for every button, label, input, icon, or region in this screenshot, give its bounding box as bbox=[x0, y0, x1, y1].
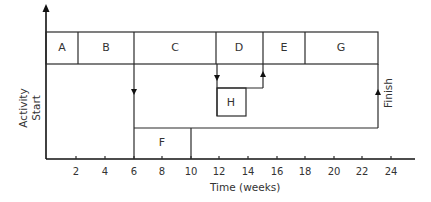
tick-label: 24 bbox=[385, 166, 398, 177]
tick-label: 22 bbox=[356, 166, 369, 177]
activity-f-label: F bbox=[159, 136, 165, 149]
tick-label: 18 bbox=[299, 166, 312, 177]
arrow-down-icon bbox=[214, 75, 220, 81]
arrow-down-icon bbox=[131, 89, 137, 95]
activity-d-label: D bbox=[235, 41, 243, 54]
tick-label: 2 bbox=[73, 166, 79, 177]
activity-g-label: G bbox=[337, 41, 346, 54]
tick-label: 4 bbox=[102, 166, 108, 177]
main-activity-band bbox=[46, 32, 378, 64]
branch-f bbox=[131, 64, 381, 159]
start-label: Start bbox=[30, 95, 42, 121]
tick-label: 10 bbox=[185, 166, 198, 177]
arrow-up-icon bbox=[375, 89, 381, 95]
arrow-up-icon bbox=[260, 71, 266, 77]
tick-label: 12 bbox=[213, 166, 226, 177]
activity-chart: 2 4 6 8 10 12 14 16 18 20 22 24 Time (we… bbox=[0, 0, 431, 202]
activity-h-label: H bbox=[227, 96, 235, 109]
y-axis-label: Activity bbox=[17, 88, 29, 127]
tick-label: 6 bbox=[131, 166, 137, 177]
finish-label: Finish bbox=[382, 78, 394, 108]
tick-label: 20 bbox=[328, 166, 341, 177]
activity-e-label: E bbox=[281, 41, 288, 54]
activity-c-label: C bbox=[171, 41, 179, 54]
tick-label: 8 bbox=[159, 166, 165, 177]
x-tick-labels: 2 4 6 8 10 12 14 16 18 20 22 24 bbox=[73, 166, 398, 177]
branch-h bbox=[214, 64, 266, 116]
activity-a-label: A bbox=[58, 41, 66, 54]
tick-label: 14 bbox=[242, 166, 255, 177]
tick-label: 16 bbox=[271, 166, 284, 177]
activity-b-label: B bbox=[102, 41, 110, 54]
x-axis-label: Time (weeks) bbox=[209, 181, 280, 193]
y-axis-arrow-icon bbox=[43, 4, 50, 12]
